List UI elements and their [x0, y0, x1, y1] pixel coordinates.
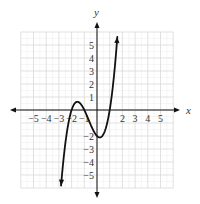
x-tick-label: 2	[120, 113, 125, 124]
x-tick-label: 3	[133, 113, 138, 124]
y-axis-label: y	[93, 6, 99, 18]
y-tick-label: 2	[89, 79, 94, 90]
function-graph: −5−4−3−2−1234554321−2−3−4−5 x y	[0, 0, 200, 204]
y-tick-label: −4	[83, 157, 94, 168]
y-tick-label: 4	[89, 53, 94, 64]
y-tick-label: −2	[83, 131, 94, 142]
x-tick-label: −5	[28, 113, 39, 124]
x-tick-label: 5	[158, 113, 163, 124]
x-tick-label: −3	[54, 113, 65, 124]
y-tick-label: −3	[83, 144, 94, 155]
y-tick-label: 3	[89, 66, 94, 77]
x-axis-label: x	[185, 104, 191, 116]
y-tick-label: −5	[83, 170, 94, 181]
y-tick-label: 1	[89, 92, 94, 103]
axes	[10, 22, 180, 198]
y-tick-label: 5	[89, 40, 94, 51]
x-tick-label: 4	[145, 113, 150, 124]
x-tick-label: −4	[41, 113, 52, 124]
